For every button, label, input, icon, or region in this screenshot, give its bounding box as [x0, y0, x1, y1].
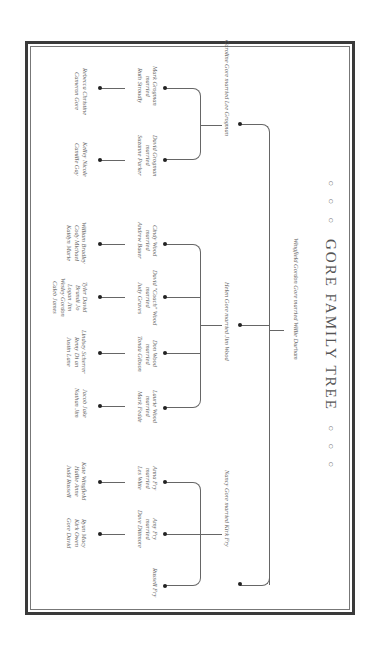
gen2-helen-label: Helen Gore married Jim Wood: [224, 282, 231, 361]
david-w-dot: [163, 295, 167, 299]
gen3-cindy: Cindy WoodmarriedAndrew Bauer: [137, 222, 159, 259]
gen4-david-g-kids: Kelley NicoleCamille Gay: [74, 142, 89, 177]
page-title: ○ ○ ○ GORE FAMILY TREE ○ ○ ○: [322, 178, 339, 472]
gen2-caroline-label: Caroline Gore married Lee Grogman: [224, 40, 231, 136]
gen2-nancy-label: Nancy Gore married Kirk Fry: [224, 470, 231, 547]
trunk-top-curve: [240, 124, 270, 134]
laurie-kids-dot: [98, 404, 102, 408]
anna-dot: [163, 480, 167, 484]
gen4-laurie-kids: Jacob JakeNathan Jim: [74, 388, 89, 418]
laurie-to-kids: [100, 406, 125, 407]
russell-dot: [163, 584, 167, 588]
david-w-kids-dot: [98, 295, 102, 299]
gen4-cindy-kids: William BradleyCody MichaelKaitlyn Marie: [66, 222, 88, 264]
helen-mid2: [165, 353, 201, 354]
mark-dot: [163, 86, 167, 90]
laurie-dot: [163, 406, 167, 410]
caroline-bracket: [165, 88, 201, 160]
mark-to-kids: [100, 88, 125, 89]
nancy-mid: [165, 534, 201, 535]
cindy-kids-dot: [98, 242, 102, 246]
gen3-anna: Anna FrymarriedLes Witte: [137, 466, 159, 490]
david-g-dot: [163, 158, 167, 162]
gen4-mark-kids: Rebecca ChristineCameron Gore: [74, 68, 89, 115]
gen4-david-w-kids: Tyler DavidBrandi JoLogan JimWesley Gord…: [52, 278, 89, 317]
nancy-tick: [200, 534, 222, 535]
ornament-circles-icon: ○ ○ ○: [326, 423, 336, 473]
nancy-dot: [238, 582, 242, 586]
gen3-amy: Amy FrymarriedDave Dittmore: [137, 510, 159, 548]
gen4-anna-kids: Kate WingfieldHallie AnneJudd Russell: [66, 462, 88, 500]
helen-mid1: [165, 297, 201, 298]
cindy-dot: [163, 242, 167, 246]
helen-bracket: [165, 244, 201, 408]
amy-dot: [163, 532, 167, 536]
gen3-david-w: David "Coach" WoodmarriedJudy Graves: [137, 270, 159, 325]
helen-tick: [200, 325, 222, 326]
david-w-to-kids: [100, 297, 125, 298]
don-kids-dot: [98, 351, 102, 355]
mark-kids-dot: [98, 86, 102, 90]
gen3-don: Don WoodmarriedTonda Gibson: [137, 336, 159, 372]
helen-dot: [238, 323, 242, 327]
gen4-don-kids: Lindsey ScherrerRemy Di anJustin Lane: [66, 330, 88, 374]
amy-to-kids: [100, 534, 125, 535]
caroline-dot: [238, 122, 242, 126]
trunk-line: [269, 133, 270, 585]
david-g-to-kids: [100, 160, 125, 161]
gen3-david-g: David GrogmanmarriedSuzanne Parker: [137, 135, 159, 176]
gen3-laurie: Laurie WoodmarriedMark Fedde: [137, 390, 159, 423]
anna-to-kids: [100, 482, 125, 483]
don-dot: [163, 351, 167, 355]
don-to-kids: [100, 353, 125, 354]
trunk-bottom-curve: [240, 576, 270, 586]
david-g-kids-dot: [98, 158, 102, 162]
caroline-tick: [200, 125, 222, 126]
title-text: GORE FAMILY TREE: [323, 233, 339, 417]
trunk-helen-connector: [240, 325, 270, 326]
anna-kids-dot: [98, 480, 102, 484]
trunk-root-tick: [270, 330, 284, 331]
gen4-amy-kids: Ryan MacyKirk OwenGore David: [66, 518, 88, 548]
gen3-mark: Mark GrogmanmarriedRuth Stroudly: [137, 66, 159, 106]
root-couple-label: Wingfield Gordon Gore married Willie Dur…: [293, 238, 300, 360]
ornament-circles-icon: ○ ○ ○: [326, 178, 336, 228]
amy-kids-dot: [98, 532, 102, 536]
gen3-russell: Russell Fry: [152, 568, 159, 597]
cindy-to-kids: [100, 244, 125, 245]
